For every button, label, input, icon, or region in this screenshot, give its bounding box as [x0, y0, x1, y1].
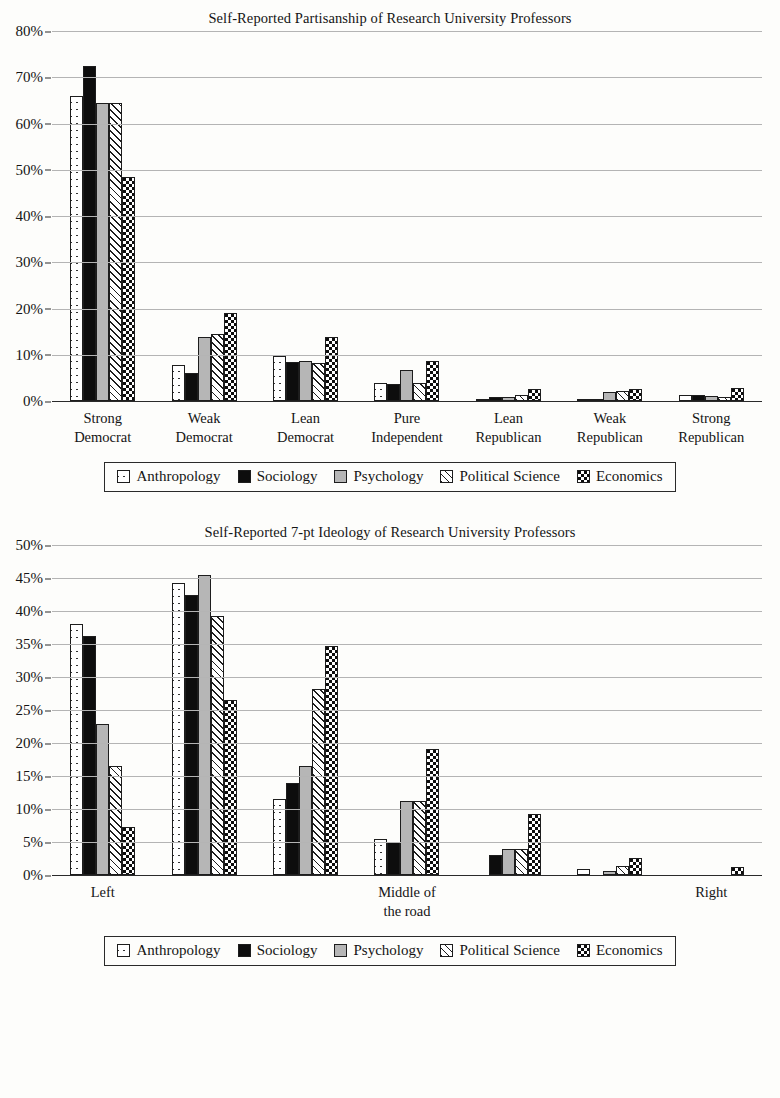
bar: [629, 389, 642, 401]
gridline: [52, 743, 762, 744]
x-axis-label-line: [255, 883, 356, 902]
y-axis-tick-label: 60%: [16, 116, 53, 131]
legend-swatch-icon: [577, 944, 590, 957]
legend-item[interactable]: Psychology: [334, 942, 423, 959]
legend-item[interactable]: Sociology: [238, 942, 318, 959]
x-axis-labels-ideology: Left Middle ofthe road Right: [52, 876, 762, 920]
legend-label: Anthropology: [136, 468, 220, 485]
legend-label: Sociology: [257, 942, 318, 959]
legend-label: Economics: [596, 942, 663, 959]
bar: [528, 389, 541, 401]
x-axis-label-line: [153, 902, 254, 921]
bar: [590, 399, 603, 401]
plot-canvas-ideology: 0%5%10%15%20%25%30%35%40%45%50%: [52, 545, 762, 876]
plot-canvas-partisanship: 0%10%20%30%40%50%60%70%80%: [52, 31, 762, 402]
bar: [325, 337, 338, 401]
bar: [603, 871, 616, 875]
gridline: [52, 776, 762, 777]
bar: [325, 646, 338, 875]
gridline: [52, 611, 762, 612]
gridline: [52, 31, 762, 32]
y-axis-tick-label: 45%: [16, 571, 53, 586]
legend-item[interactable]: Political Science: [440, 942, 559, 959]
x-axis-label-line: Republican: [661, 428, 762, 447]
legend-row: AnthropologySociologyPsychologyPolitical…: [117, 468, 662, 485]
legend-swatch-icon: [334, 470, 347, 483]
y-axis-tick-label: 0%: [23, 868, 52, 883]
gridline: [52, 644, 762, 645]
bar: [211, 616, 224, 875]
bar: [96, 103, 109, 401]
legend-item[interactable]: Psychology: [334, 468, 423, 485]
x-axis-label-line: [559, 902, 660, 921]
bar: [198, 337, 211, 401]
y-axis-tick-label: 25%: [16, 703, 53, 718]
y-axis-tick-label: 20%: [16, 301, 53, 316]
x-axis-label-line: [458, 883, 559, 902]
bar: [122, 827, 135, 875]
bar: [312, 689, 325, 875]
x-axis-labels-partisanship: StrongDemocratWeakDemocratLeanDemocratPu…: [52, 402, 762, 446]
bar: [387, 384, 400, 401]
x-axis-label-line: [458, 902, 559, 921]
x-axis-label-line: the road: [356, 902, 457, 921]
bar: [172, 583, 185, 875]
legend-swatch-icon: [238, 470, 251, 483]
x-axis-tick-label: LeanRepublican: [458, 409, 559, 446]
bar: [83, 636, 96, 876]
gridline: [52, 677, 762, 678]
gridline: [52, 545, 762, 546]
legend-swatch-icon: [334, 944, 347, 957]
bar: [185, 595, 198, 876]
bar: [679, 395, 692, 401]
legend-partisanship: AnthropologySociologyPsychologyPolitical…: [104, 462, 675, 492]
legend-swatch-icon: [117, 944, 130, 957]
x-axis-tick-label: [458, 883, 559, 920]
x-axis-label-line: Democrat: [255, 428, 356, 447]
legend-item[interactable]: Sociology: [238, 468, 318, 485]
bar: [502, 849, 515, 875]
gridline: [52, 77, 762, 78]
bar: [603, 392, 616, 401]
x-axis-tick-label: StrongRepublican: [661, 409, 762, 446]
gridline: [52, 842, 762, 843]
bar: [198, 575, 211, 875]
legend-item[interactable]: Political Science: [440, 468, 559, 485]
partisanship-figure: Self-Reported Partisanship of Research U…: [0, 0, 780, 492]
bar: [172, 365, 185, 401]
bar: [286, 783, 299, 875]
legend-swatch-icon: [440, 470, 453, 483]
bar: [387, 842, 400, 875]
legend-label: Political Science: [459, 468, 559, 485]
legend-label: Political Science: [459, 942, 559, 959]
x-axis-label-line: Lean: [458, 409, 559, 428]
legend-item[interactable]: Economics: [577, 942, 663, 959]
x-axis-label-line: Middle of: [356, 883, 457, 902]
bar: [224, 700, 237, 875]
legend-item[interactable]: Anthropology: [117, 942, 220, 959]
bar: [83, 66, 96, 401]
x-axis-label-line: Republican: [559, 428, 660, 447]
bar: [489, 855, 502, 875]
bar: [400, 370, 413, 401]
x-axis-label-line: Left: [52, 883, 153, 902]
legend-label: Psychology: [353, 942, 423, 959]
bar: [616, 391, 629, 401]
bar: [286, 362, 299, 401]
x-axis-label-line: Independent: [356, 428, 457, 447]
gridline: [52, 170, 762, 171]
y-axis-tick-label: 30%: [16, 670, 53, 685]
x-axis-label-line: Pure: [356, 409, 457, 428]
legend-swatch-icon: [440, 944, 453, 957]
legend-item[interactable]: Anthropology: [117, 468, 220, 485]
bar: [705, 396, 718, 401]
bar: [70, 624, 83, 875]
bar: [731, 867, 744, 876]
legend-item[interactable]: Economics: [577, 468, 663, 485]
y-axis-tick-label: 35%: [16, 637, 53, 652]
bar: [692, 395, 705, 401]
bar: [374, 839, 387, 875]
y-axis-tick-label: 20%: [16, 736, 53, 751]
y-axis-tick-label: 50%: [16, 538, 53, 553]
y-axis-tick-label: 40%: [16, 604, 53, 619]
